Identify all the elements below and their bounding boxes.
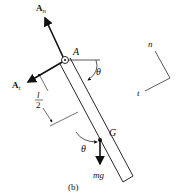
axis-n-label: n <box>148 39 153 49</box>
nt-axes <box>145 51 170 91</box>
At-force-arrow <box>28 61 64 82</box>
weight-label: mg <box>93 170 104 180</box>
theta-label-top: θ <box>96 66 101 77</box>
pin-label: A <box>72 46 80 57</box>
center-of-mass-label: G <box>109 127 116 138</box>
An-label: An <box>36 3 47 15</box>
figure-caption: (b) <box>68 182 79 192</box>
theta-label-bottom: θ <box>81 143 86 154</box>
half-length-numerator: l <box>37 90 40 100</box>
half-length-denominator: 2 <box>36 100 41 110</box>
At-label: At <box>12 80 22 92</box>
An-force-arrow <box>45 18 64 59</box>
theta-arc-bottom <box>76 132 97 142</box>
axis-t-label: t <box>137 88 140 98</box>
free-body-diagram: θ An At A l 2 G θ mg n t (b) <box>0 0 180 194</box>
half-length-dimension <box>40 76 78 126</box>
